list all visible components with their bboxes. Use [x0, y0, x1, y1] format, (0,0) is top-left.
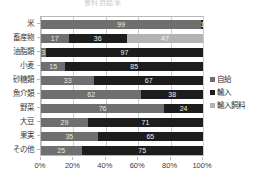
value-tick-label: 20%	[65, 161, 80, 170]
value-tick	[72, 157, 73, 160]
legend-item[interactable]: 輸入	[210, 86, 256, 99]
category-label: 野菜	[20, 103, 34, 112]
value-tick	[202, 157, 203, 160]
bar-segment[interactable]: 36	[69, 34, 127, 43]
plot-area: 9911736473971585336762387624297135652575	[40, 16, 204, 156]
bar-row[interactable]: 6238	[41, 90, 203, 99]
value-axis: 0%20%40%60%80%100%	[40, 157, 204, 173]
bar-segment-label: 1	[201, 21, 203, 28]
category-label: 畜産物	[13, 33, 34, 42]
bar-segment[interactable]: 67	[94, 76, 203, 85]
value-tick	[105, 157, 106, 160]
bar-segment[interactable]: 33	[41, 76, 94, 85]
stacked-bar-chart: 食料自給率 米畜産物油脂類小麦砂糖類魚介類野菜大豆果実その他 991173647…	[0, 0, 257, 186]
value-tick	[137, 157, 138, 160]
bar-segment[interactable]: 85	[65, 62, 203, 71]
category-label: 砂糖類	[13, 75, 34, 84]
bar-row[interactable]: 3367	[41, 76, 203, 85]
bar-segment-label: 24	[180, 105, 188, 112]
bar-row[interactable]: 173647	[41, 34, 203, 43]
legend-swatch-icon	[210, 77, 215, 82]
category-axis: 米畜産物油脂類小麦砂糖類魚介類野菜大豆果実その他	[0, 16, 37, 156]
bar-row[interactable]: 397	[41, 48, 203, 57]
bar-segment-label: 33	[64, 77, 72, 84]
bar-segment-label: 67	[145, 77, 153, 84]
bar-segment[interactable]: 97	[46, 48, 203, 57]
chart-title: 食料自給率	[0, 0, 205, 7]
value-tick	[40, 157, 41, 160]
bar-row[interactable]: 2971	[41, 118, 203, 127]
bar-segment-label: 47	[161, 35, 169, 42]
category-label: 大豆	[20, 117, 34, 126]
bar-row[interactable]: 1585	[41, 62, 203, 71]
bar-rows: 9911736473971585336762387624297135652575	[41, 17, 203, 155]
legend-swatch-icon	[210, 90, 215, 95]
value-tick	[170, 157, 171, 160]
value-tick-label: 40%	[97, 161, 112, 170]
bar-row[interactable]: 991	[41, 20, 203, 29]
bar-segment[interactable]: 65	[98, 132, 203, 141]
category-label: 小麦	[20, 61, 34, 70]
category-label: その他	[13, 145, 34, 154]
bar-segment[interactable]: 29	[41, 118, 88, 127]
bar-segment-label: 35	[65, 133, 73, 140]
value-tick-label: 60%	[130, 161, 145, 170]
legend-item[interactable]: 輸入飼料	[210, 99, 256, 112]
category-label: 米	[27, 19, 34, 28]
legend-label: 自給	[217, 75, 231, 84]
bar-segment-label: 65	[146, 133, 154, 140]
bar-segment[interactable]: 76	[41, 104, 164, 113]
bar-segment[interactable]: 62	[41, 90, 141, 99]
bar-segment-label: 75	[138, 147, 146, 154]
bar-segment-label: 17	[51, 35, 59, 42]
value-tick-label: 80%	[162, 161, 177, 170]
legend-label: 輸入飼料	[217, 101, 245, 110]
bar-segment-label: 76	[99, 105, 107, 112]
category-label: 魚介類	[13, 89, 34, 98]
bar-row[interactable]: 3565	[41, 132, 203, 141]
bar-segment-label: 62	[87, 91, 95, 98]
bar-row[interactable]: 2575	[41, 146, 203, 155]
bar-segment-label: 38	[168, 91, 176, 98]
bar-segment-label: 99	[117, 21, 125, 28]
bar-segment[interactable]: 15	[41, 62, 65, 71]
bar-segment[interactable]: 47	[127, 34, 203, 43]
bar-segment-label: 85	[130, 63, 138, 70]
bar-segment[interactable]: 99	[41, 20, 201, 29]
bar-segment[interactable]: 38	[141, 90, 203, 99]
bar-row[interactable]: 7624	[41, 104, 203, 113]
bar-segment-label: 3	[41, 49, 45, 56]
bar-segment-label: 29	[61, 119, 69, 126]
bar-segment[interactable]: 35	[41, 132, 98, 141]
bar-segment[interactable]: 1	[201, 20, 203, 29]
legend-label: 輸入	[217, 88, 231, 97]
gridline	[203, 17, 204, 155]
bar-segment-label: 71	[142, 119, 150, 126]
chart-legend: 自給輸入輸入飼料	[210, 73, 256, 112]
bar-segment-label: 36	[94, 35, 102, 42]
bar-segment-label: 97	[121, 49, 129, 56]
bar-segment[interactable]: 75	[82, 146, 204, 155]
legend-swatch-icon	[210, 103, 215, 108]
category-label: 果実	[20, 131, 34, 140]
bar-segment[interactable]: 25	[41, 146, 82, 155]
bar-segment-label: 25	[57, 147, 65, 154]
legend-item[interactable]: 自給	[210, 73, 256, 86]
bar-segment[interactable]: 71	[88, 118, 203, 127]
bar-segment[interactable]: 24	[164, 104, 203, 113]
category-label: 油脂類	[13, 47, 34, 56]
bar-segment-label: 15	[49, 63, 57, 70]
bar-segment[interactable]: 17	[41, 34, 69, 43]
value-tick-label: 0%	[35, 161, 46, 170]
value-tick-label: 100%	[192, 161, 211, 170]
